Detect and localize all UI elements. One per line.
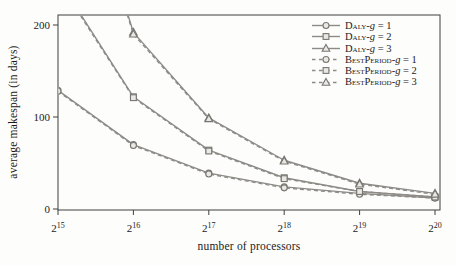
legend-label: BestPeriod-g = 3 (345, 76, 417, 87)
y-axis-label: average makespan (in days) (7, 45, 19, 178)
x-tick-label: 220 (428, 221, 442, 235)
legend-label: Daly-g = 3 (345, 43, 391, 54)
x-tick-label: 219 (353, 221, 367, 235)
x-tick-label: 217 (202, 221, 216, 235)
legend-label: Daly-g = 2 (345, 31, 391, 42)
legend-label: BestPeriod-g = 2 (345, 65, 417, 76)
legend-sample-circle-solid (311, 20, 341, 31)
square-marker (206, 148, 212, 154)
makespan-figure: 0100200215216217218219220 average makesp… (0, 0, 456, 265)
legend-item: Daly-g = 1 (311, 20, 417, 31)
circle-marker (323, 23, 329, 29)
series-line-circle-solid (58, 90, 435, 198)
circle-marker (130, 143, 136, 149)
square-marker (281, 176, 287, 182)
square-marker (323, 68, 329, 74)
legend-sample-square-dashed (311, 65, 341, 76)
y-tick-label: 200 (34, 19, 51, 31)
legend-sample-triangle-solid (311, 43, 341, 54)
legend-sample-square-solid (311, 31, 341, 42)
legend-item: Daly-g = 2 (311, 31, 417, 42)
series-line-circle-dashed (58, 91, 435, 198)
square-marker (323, 34, 329, 40)
legend-item: BestPeriod-g = 3 (311, 76, 417, 87)
square-marker (357, 189, 363, 195)
legend-sample-circle-dashed (311, 54, 341, 65)
x-tick-label: 215 (51, 221, 65, 235)
chart-legend: Daly-g = 1Daly-g = 2Daly-g = 3BestPeriod… (311, 20, 417, 88)
legend-sample-triangle-dashed (311, 77, 341, 88)
legend-item: Daly-g = 3 (311, 43, 417, 54)
y-tick-label: 100 (34, 111, 51, 123)
square-marker (131, 95, 137, 101)
legend-label: BestPeriod-g = 1 (345, 54, 417, 65)
legend-item: BestPeriod-g = 1 (311, 54, 417, 65)
legend-item: BestPeriod-g = 2 (311, 65, 417, 76)
circle-marker (206, 171, 212, 177)
legend-label: Daly-g = 1 (345, 20, 391, 31)
x-tick-label: 216 (127, 221, 141, 235)
circle-marker (281, 185, 287, 191)
x-tick-label: 218 (277, 221, 291, 235)
circle-marker (323, 57, 329, 63)
x-axis-label: number of processors (197, 240, 300, 252)
y-tick-label: 0 (45, 203, 51, 215)
